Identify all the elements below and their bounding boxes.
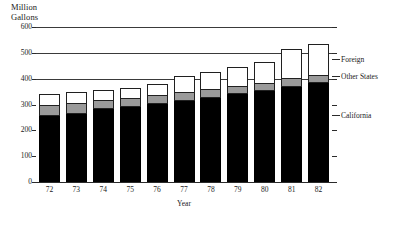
bar-segment-76-foreign (147, 84, 168, 96)
bar-74[interactable] (93, 90, 114, 182)
legend-leader-foreign (332, 59, 340, 60)
bar-segment-80-california (254, 91, 275, 182)
bar-segment-78-california (200, 98, 221, 182)
y-tick-label-400: 400 (21, 75, 32, 83)
bar-segment-73-california (66, 114, 87, 182)
bar-77[interactable] (174, 76, 195, 182)
y-tick-mark-right-100 (332, 156, 337, 157)
x-tick-label-80: 80 (252, 185, 278, 195)
bar-segment-72-foreign (39, 94, 60, 105)
legend-label-california: California (341, 111, 371, 120)
y-axis-tick-labels: 0100200300400500600 (8, 27, 32, 182)
y-tick-label-100: 100 (21, 152, 32, 160)
bar-75[interactable] (120, 88, 141, 182)
bar-segment-75-california (120, 107, 141, 182)
x-tick-label-73: 73 (63, 185, 89, 195)
bar-segment-72-other-states (39, 105, 60, 116)
bar-segment-73-foreign (66, 92, 87, 103)
y-tick-mark-right-300 (332, 105, 337, 106)
bar-segment-72-california (39, 116, 60, 182)
y-axis-title: Million Gallons (11, 2, 38, 22)
bar-80[interactable] (254, 62, 275, 182)
bar-segment-81-other-states (281, 78, 302, 87)
x-tick-label-82: 82 (306, 185, 332, 195)
x-axis-line (36, 182, 332, 183)
legend-leader-other-states (332, 76, 340, 77)
bar-segment-77-california (174, 101, 195, 182)
bar-segment-80-foreign (254, 62, 275, 83)
y-tick-mark-right-600 (332, 27, 337, 28)
x-axis-title: Year (36, 199, 332, 209)
bar-segment-73-other-states (66, 103, 87, 115)
legend-leader-california (332, 115, 340, 116)
bar-segment-77-foreign (174, 76, 195, 92)
gridline-600 (36, 27, 332, 28)
y-tick-label-300: 300 (21, 101, 32, 109)
bar-segment-75-foreign (120, 88, 141, 98)
bar-segment-76-other-states (147, 95, 168, 104)
bar-segment-74-california (93, 109, 114, 182)
x-tick-label-79: 79 (225, 185, 251, 195)
bar-81[interactable] (281, 49, 302, 182)
bar-segment-79-other-states (227, 86, 248, 95)
y-tick-label-200: 200 (21, 126, 32, 134)
bar-segment-82-other-states (308, 75, 329, 83)
y-tick-mark-right-500 (332, 53, 337, 54)
bar-segment-82-foreign (308, 44, 329, 75)
x-tick-label-72: 72 (36, 185, 62, 195)
x-tick-label-75: 75 (117, 185, 143, 195)
bar-segment-77-other-states (174, 92, 195, 101)
legend-label-other-states: Other States (341, 72, 378, 81)
x-tick-label-76: 76 (144, 185, 170, 195)
y-tick-label-500: 500 (21, 49, 32, 57)
bar-78[interactable] (200, 72, 221, 182)
bar-segment-75-other-states (120, 98, 141, 107)
bar-segment-79-california (227, 94, 248, 182)
bar-segment-74-foreign (93, 90, 114, 101)
bar-79[interactable] (227, 67, 248, 182)
bar-72[interactable] (39, 94, 60, 182)
x-axis-tick-labels: 7273747576777879808182 (36, 185, 332, 197)
x-tick-label-78: 78 (198, 185, 224, 195)
bar-segment-81-foreign (281, 49, 302, 78)
y-tick-mark-right-400 (332, 79, 337, 80)
bar-segment-79-foreign (227, 67, 248, 86)
x-tick-label-81: 81 (279, 185, 305, 195)
bar-segment-78-other-states (200, 89, 221, 98)
bar-segment-78-foreign (200, 72, 221, 89)
bar-82[interactable] (308, 44, 329, 182)
bar-segment-80-other-states (254, 83, 275, 91)
legend-label-foreign: Foreign (341, 55, 364, 64)
x-tick-label-74: 74 (90, 185, 116, 195)
bar-segment-82-california (308, 83, 329, 182)
y-tick-mark-right-0 (332, 182, 337, 183)
bar-76[interactable] (147, 84, 168, 182)
bar-73[interactable] (66, 92, 87, 182)
bar-segment-81-california (281, 87, 302, 182)
plot-area (36, 27, 332, 182)
x-tick-label-77: 77 (171, 185, 197, 195)
chart-figure: Million Gallons 0100200300400500600 7273… (0, 0, 399, 225)
bar-segment-76-california (147, 104, 168, 182)
bar-segment-74-other-states (93, 100, 114, 109)
y-tick-label-600: 600 (21, 23, 32, 31)
y-tick-mark-right-200 (332, 130, 337, 131)
